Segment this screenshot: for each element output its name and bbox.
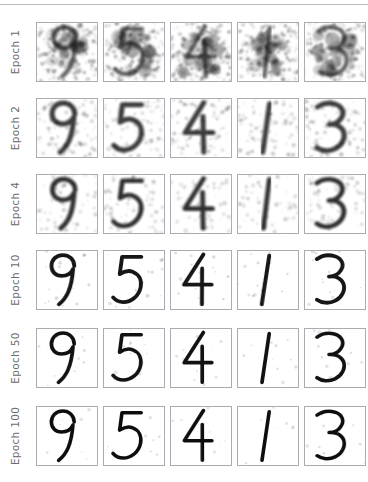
digit-cell: [237, 406, 299, 466]
digit-cell: [170, 406, 232, 466]
digit-cell: [304, 22, 366, 82]
epoch-row-cells: [36, 398, 356, 474]
digit-glyph-svg: [104, 251, 164, 309]
digit-cell: [36, 22, 98, 82]
digit-cell: [103, 250, 165, 310]
row-label-text: Epoch 100: [9, 407, 21, 465]
digit-cell: [237, 98, 299, 158]
digit-cell: [103, 328, 165, 388]
digit-glyph-svg: [104, 329, 164, 387]
digit-cell: [36, 328, 98, 388]
digit-glyph-svg: [305, 99, 365, 157]
digit-cell: [170, 328, 232, 388]
digit-cell: [103, 22, 165, 82]
digit-glyph-svg: [37, 99, 97, 157]
digit-glyph-svg: [171, 329, 231, 387]
epoch-row: Epoch 1: [0, 14, 368, 90]
digit-glyph-svg: [171, 251, 231, 309]
digit-glyph-svg: [305, 251, 365, 309]
row-label-text: Epoch 4: [9, 182, 21, 226]
digit-glyph-svg: [37, 329, 97, 387]
digit-glyph-svg: [305, 175, 365, 233]
digit-cell: [237, 22, 299, 82]
row-label-epoch-2: Epoch 2: [0, 90, 30, 166]
row-label-epoch-100: Epoch 100: [0, 398, 30, 474]
epoch-row: Epoch 50: [0, 320, 368, 398]
digit-glyph-svg: [171, 99, 231, 157]
digit-cell: [304, 250, 366, 310]
digit-glyph-svg: [305, 329, 365, 387]
epoch-row-cells: [36, 166, 356, 242]
epoch-row: Epoch 2: [0, 90, 368, 166]
epoch-row-cells: [36, 242, 356, 318]
row-label-epoch-4: Epoch 4: [0, 166, 30, 242]
epoch-row-cells: [36, 90, 356, 166]
digit-glyph-svg: [238, 329, 298, 387]
row-label-epoch-10: Epoch 10: [0, 242, 30, 318]
digit-cell: [304, 328, 366, 388]
row-label-epoch-50: Epoch 50: [0, 320, 30, 396]
digit-glyph-svg: [171, 407, 231, 465]
digit-glyph-svg: [171, 175, 231, 233]
digit-glyph-svg: [238, 175, 298, 233]
digit-glyph-svg: [104, 99, 164, 157]
epoch-grid: Epoch 1Epoch 2Epoch 4Epoch 10Epoch 50Epo…: [0, 14, 368, 476]
epoch-row: Epoch 4: [0, 166, 368, 242]
digit-cell: [170, 174, 232, 234]
digit-glyph-svg: [238, 23, 298, 81]
row-label-text: Epoch 1: [9, 30, 21, 74]
digit-cell: [103, 98, 165, 158]
row-label-text: Epoch 2: [9, 106, 21, 150]
digit-cell: [170, 98, 232, 158]
digit-cell: [304, 174, 366, 234]
epoch-row: Epoch 10: [0, 242, 368, 320]
digit-cell: [36, 98, 98, 158]
digit-glyph-svg: [104, 23, 164, 81]
digit-cell: [170, 22, 232, 82]
digit-cell: [36, 250, 98, 310]
digit-cell: [103, 406, 165, 466]
digit-cell: [103, 174, 165, 234]
digit-glyph-svg: [238, 251, 298, 309]
digit-glyph-svg: [37, 23, 97, 81]
digit-glyph-svg: [104, 407, 164, 465]
digit-glyph-svg: [37, 407, 97, 465]
digit-cell: [36, 406, 98, 466]
digit-cell: [170, 250, 232, 310]
epoch-row-cells: [36, 14, 356, 90]
row-label-text: Epoch 50: [9, 332, 21, 383]
digit-glyph-svg: [238, 407, 298, 465]
digit-glyph-svg: [37, 251, 97, 309]
digit-cell: [304, 406, 366, 466]
epoch-reconstruction-figure: Epoch 1Epoch 2Epoch 4Epoch 10Epoch 50Epo…: [0, 0, 368, 482]
row-label-epoch-1: Epoch 1: [0, 14, 30, 90]
digit-glyph-svg: [171, 23, 231, 81]
digit-glyph-svg: [37, 175, 97, 233]
digit-glyph-svg: [305, 23, 365, 81]
epoch-row: Epoch 100: [0, 398, 368, 476]
digit-glyph-svg: [104, 175, 164, 233]
digit-cell: [237, 250, 299, 310]
digit-glyph-svg: [238, 99, 298, 157]
epoch-row-cells: [36, 320, 356, 396]
digit-cell: [237, 174, 299, 234]
digit-cell: [304, 98, 366, 158]
digit-cell: [237, 328, 299, 388]
top-divider-rule: [0, 4, 368, 5]
row-label-text: Epoch 10: [9, 254, 21, 305]
digit-cell: [36, 174, 98, 234]
digit-glyph-svg: [305, 407, 365, 465]
